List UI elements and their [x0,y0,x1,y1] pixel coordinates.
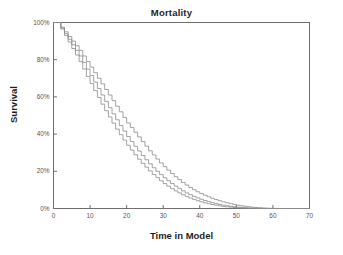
mortality-survival-chart: Mortality Survival Time in Model 0102030… [0,0,343,255]
x-tick-label: 0 [42,212,66,219]
y-tick-label: 60% [16,93,50,100]
y-tick-label: 20% [16,167,50,174]
x-tick-label: 40 [188,212,212,219]
x-tick-label: 10 [78,212,102,219]
x-tick-label: 30 [151,212,175,219]
y-tick-label: 0% [16,205,50,212]
x-tick-label: 60 [261,212,285,219]
x-tick-label: 20 [115,212,139,219]
y-tick-label: 100% [16,19,50,26]
x-tick-label: 50 [224,212,248,219]
y-tick-label: 40% [16,130,50,137]
y-tick-label: 80% [16,56,50,63]
x-tick-label: 70 [298,212,322,219]
